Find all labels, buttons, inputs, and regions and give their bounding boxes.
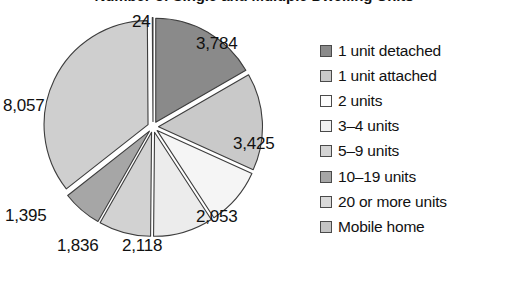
chart-legend: 1 unit detached1 unit attached2 units3–4…: [320, 38, 508, 240]
slice-value-label: 2,118: [122, 236, 162, 256]
legend-item[interactable]: Mobile home: [320, 214, 508, 239]
legend-item-label: 1 unit detached: [338, 42, 441, 60]
slice-value-label: 2,053: [196, 207, 238, 227]
slice-value-label: 1,395: [5, 206, 47, 226]
legend-item-label: 2 units: [338, 92, 382, 110]
pie-slice[interactable]: [152, 17, 153, 121]
slice-value-label: 24: [132, 12, 151, 32]
legend-swatch-icon: [320, 120, 332, 132]
pie-chart-figure: Number of Single and Multiple Dwelling U…: [0, 0, 508, 281]
slice-value-label: 3,425: [233, 134, 275, 154]
legend-item[interactable]: 10–19 units: [320, 164, 508, 189]
pie-slice[interactable]: [44, 21, 148, 189]
legend-item-label: 20 or more units: [338, 193, 447, 211]
legend-swatch-icon: [320, 221, 332, 233]
legend-swatch-icon: [320, 171, 332, 183]
legend-item-label: 5–9 units: [338, 142, 399, 160]
legend-item[interactable]: 3–4 units: [320, 114, 508, 139]
legend-swatch-icon: [320, 145, 332, 157]
legend-swatch-icon: [320, 70, 332, 82]
legend-item-label: 3–4 units: [338, 117, 399, 135]
legend-item[interactable]: 20 or more units: [320, 189, 508, 214]
chart-plot-area: 243,7843,4252,0532,1181,8361,3958,057: [0, 8, 300, 273]
legend-item[interactable]: 5–9 units: [320, 139, 508, 164]
legend-item[interactable]: 2 units: [320, 88, 508, 113]
page-title: Number of Single and Multiple Dwelling U…: [95, 0, 414, 4]
legend-item[interactable]: 1 unit detached: [320, 38, 508, 63]
legend-item-label: 10–19 units: [338, 168, 416, 186]
slice-value-label: 8,057: [3, 96, 45, 116]
legend-swatch-icon: [320, 196, 332, 208]
legend-item-label: 1 unit attached: [338, 67, 437, 85]
slice-value-label: 1,836: [57, 236, 99, 256]
legend-swatch-icon: [320, 45, 332, 57]
legend-item[interactable]: 1 unit attached: [320, 63, 508, 88]
slice-value-label: 3,784: [196, 34, 238, 54]
legend-swatch-icon: [320, 95, 332, 107]
legend-item-label: Mobile home: [338, 218, 425, 236]
